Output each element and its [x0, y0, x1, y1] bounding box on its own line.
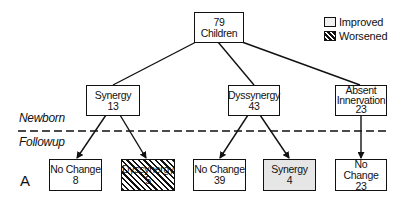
- worsened-swatch: [324, 31, 336, 41]
- followup-node-no-change-23: No Change 23: [335, 159, 387, 191]
- legend-improved-label: Improved: [339, 16, 383, 28]
- node-count: 23: [355, 105, 366, 115]
- root-node: 79 Children: [194, 12, 244, 43]
- node-count: 23: [355, 181, 366, 192]
- node-count: 13: [107, 101, 118, 112]
- legend-improved: Improved: [324, 16, 383, 28]
- node-label: Synergy: [95, 90, 131, 101]
- followup-label: Followup: [19, 135, 65, 149]
- node-count: 5: [145, 175, 151, 186]
- newborn-node-dyssynergy: Dyssynergy 43: [228, 85, 280, 116]
- node-count: 4: [287, 175, 293, 186]
- legend-worsened-label: Worsened: [339, 30, 387, 42]
- node-label: No Change: [336, 159, 386, 181]
- panel-label: A: [20, 172, 30, 189]
- followup-node-no-change-8: No Change 8: [49, 159, 102, 191]
- newborn-label: Newborn: [19, 111, 65, 125]
- node-count: 8: [73, 175, 79, 186]
- improved-swatch: [324, 17, 336, 27]
- newborn-node-absent-innervation: Absent Innervation 23: [335, 85, 387, 116]
- node-count: 43: [248, 101, 259, 112]
- legend-worsened: Worsened: [324, 30, 387, 42]
- followup-node-synergy-4: Synergy 4: [263, 159, 316, 191]
- newborn-node-synergy: Synergy 13: [86, 85, 140, 116]
- followup-node-dyssynergy-5: Dyssynergy 5: [121, 159, 175, 191]
- node-label: Dyssynergy: [228, 90, 280, 101]
- root-count: 79: [213, 17, 224, 28]
- followup-node-no-change-39: No Change 39: [193, 159, 246, 191]
- node-count: 39: [214, 175, 225, 186]
- root-label: Children: [201, 28, 238, 39]
